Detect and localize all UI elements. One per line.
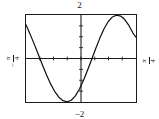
x-max-label-rotated: π 4 (138, 50, 159, 72)
x-min-fraction-body: π 4 (5, 55, 22, 62)
y-max-label: 2 (0, 1, 159, 10)
x-min-minus-sign: − (9, 63, 17, 67)
y-min-label: −2 (0, 110, 159, 119)
plot-frame (25, 14, 137, 103)
x-min-numerator: π (5, 56, 12, 62)
x-max-fraction: π 4 (141, 58, 158, 65)
x-min-fraction: − π 4 (5, 55, 22, 67)
x-min-label-rotated: − π 4 (2, 50, 24, 72)
plot-canvas (26, 15, 136, 102)
x-max-denominator: 4 (150, 59, 157, 63)
x-max-numerator: π (141, 58, 148, 64)
x-max-fraction-body: π 4 (141, 58, 158, 65)
x-max-label: π 4 (138, 50, 159, 72)
graph-figure: 2 − π 4 π 4 (0, 0, 159, 119)
x-min-label: − π 4 (2, 50, 24, 72)
x-min-denominator: 4 (14, 57, 21, 61)
